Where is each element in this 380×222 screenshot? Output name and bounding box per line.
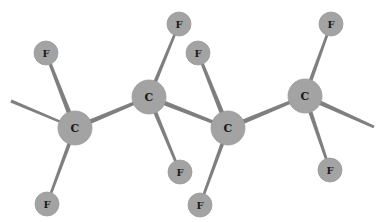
carbon-atom-c1: C — [58, 111, 92, 145]
atom-label: F — [175, 19, 182, 30]
fluorine-atom-f5: F — [168, 160, 192, 184]
atom-label: F — [43, 199, 50, 210]
atom-label: F — [326, 165, 333, 176]
fluorine-atom-f6: F — [188, 193, 212, 217]
atom-label: F — [42, 48, 49, 59]
atom-label: F — [176, 167, 183, 178]
fluorine-atom-f7: F — [319, 12, 343, 36]
carbon-atom-c3: C — [211, 111, 245, 145]
atom-label: C — [71, 122, 80, 135]
fluorine-atom-f4: F — [186, 41, 210, 65]
atom-label: F — [196, 200, 203, 211]
atom-label: F — [194, 48, 201, 59]
fluorine-atom-f2: F — [35, 192, 59, 216]
atom-label: C — [145, 91, 154, 104]
atom-label: F — [327, 19, 334, 30]
fluorine-atom-f1: F — [34, 41, 58, 65]
fluorine-atom-f8: F — [318, 158, 342, 182]
carbon-atom-c2: C — [132, 80, 166, 114]
molecule-diagram: CCCCFFFFFFFF — [0, 0, 380, 222]
atom-label: C — [224, 122, 233, 135]
atom-label: C — [301, 90, 310, 103]
carbon-atom-c4: C — [288, 79, 322, 113]
fluorine-atom-f3: F — [167, 12, 191, 36]
